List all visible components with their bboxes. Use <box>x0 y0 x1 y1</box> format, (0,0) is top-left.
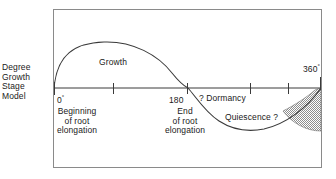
start-tick-label: 0° <box>57 96 64 106</box>
figure-root: Degree Growth Stage Model Growth 0° Begi… <box>0 0 336 179</box>
model-label: Degree Growth Stage Model <box>2 63 30 101</box>
end-tick-label: 360° <box>303 65 320 75</box>
mid-caption: End of root elongation <box>152 107 218 136</box>
end-tick-value: 360 <box>303 64 317 74</box>
mid-tick-label: 180 <box>169 96 183 106</box>
quiescence-phase-label: Quiescence ? <box>225 113 278 123</box>
degree-growth-stage-diagram <box>0 0 336 179</box>
degree-symbol-icon: ° <box>62 94 65 100</box>
growth-phase-label: Growth <box>99 58 127 68</box>
start-caption: Beginning of root elongation <box>44 107 110 136</box>
dormancy-phase-label: ? Dormancy <box>199 94 246 104</box>
degree-symbol-icon-end: ° <box>317 63 320 69</box>
